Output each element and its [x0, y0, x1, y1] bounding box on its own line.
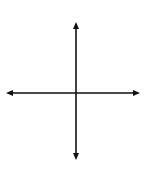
coordinate-plane	[0, 0, 147, 181]
x-axis	[6, 90, 140, 96]
y-axis	[73, 22, 79, 160]
